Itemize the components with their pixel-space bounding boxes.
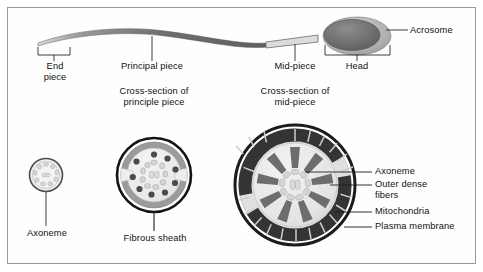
label-acrosome: Acrosome (410, 25, 453, 36)
label-axoneme-panel: Axoneme (20, 228, 74, 239)
title-mid-piece-cross-section: Cross-section of mid-piece (245, 86, 345, 108)
label-end-piece: End piece (32, 61, 78, 83)
label-head: Head (335, 61, 379, 72)
sperm-tail (38, 29, 268, 48)
label-fibrous-sheath: Fibrous sheath (112, 233, 198, 244)
sperm-structure-figure: End piece Principal piece Mid-piece Head… (0, 0, 483, 272)
label-mitochondria: Mitochondria (375, 206, 429, 217)
label-axoneme-midpiece: Axoneme (375, 166, 415, 177)
sperm-head (323, 17, 391, 55)
principal-piece-panel-art (117, 138, 191, 231)
label-mid-piece: Mid-piece (259, 61, 331, 72)
mid-piece-segment (266, 35, 318, 48)
axoneme-panel-art (30, 159, 63, 227)
label-plasma-membrane: Plasma membrane (375, 221, 455, 232)
title-principal-piece-cross-section: Cross-section of principle piece (104, 86, 204, 108)
label-principal-piece: Principal piece (102, 61, 202, 72)
label-outer-dense-fibers: Outer dense fibers (375, 179, 427, 201)
mid-piece-panel-art (235, 125, 372, 245)
